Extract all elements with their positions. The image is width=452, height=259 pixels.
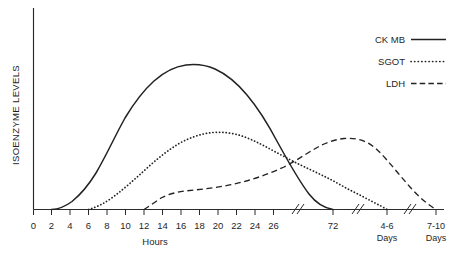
x-tick-label: 4 bbox=[67, 220, 72, 231]
series-line-ck-mb bbox=[52, 65, 334, 210]
y-axis-title: ISOENZYME LEVELS bbox=[10, 65, 21, 165]
series-curves bbox=[52, 65, 437, 210]
x-tick-label: 20 bbox=[213, 220, 224, 231]
x-tick-label: 16 bbox=[176, 220, 187, 231]
chart-plot-area: 0 2 4 6 8 10 12 14 16 18 20 22 24 26 72 … bbox=[0, 0, 452, 259]
x-tick-label: 8 bbox=[104, 220, 109, 231]
x-tick-label: 10 bbox=[120, 220, 131, 231]
legend-item-sgot: SGOT bbox=[378, 56, 446, 67]
series-line-sgot bbox=[89, 132, 388, 209]
x-tick-label: 4-6 bbox=[380, 221, 393, 231]
x-tick-label: 22 bbox=[231, 220, 242, 231]
chart-legend: CK MB SGOT LDH bbox=[375, 34, 446, 89]
legend-label: LDH bbox=[386, 78, 405, 89]
x-tick-label: 12 bbox=[139, 220, 150, 231]
x-axis-tick-labels: 0 2 4 6 8 10 12 14 16 18 20 22 24 26 72 … bbox=[31, 220, 447, 243]
x-tick-label: 0 bbox=[31, 220, 36, 231]
isoenzyme-chart-figure: 0 2 4 6 8 10 12 14 16 18 20 22 24 26 72 … bbox=[0, 0, 452, 259]
legend-label: CK MB bbox=[375, 34, 405, 45]
x-tick-label: 72 bbox=[328, 220, 339, 231]
x-axis-tick-marks bbox=[34, 210, 437, 216]
series-line-ldh bbox=[144, 138, 436, 209]
x-tick-label: 14 bbox=[157, 220, 168, 231]
x-tick-label: 24 bbox=[250, 220, 261, 231]
x-axis-title: Hours bbox=[142, 236, 168, 247]
x-tick-sublabel: Days bbox=[377, 233, 398, 243]
legend-item-ck-mb: CK MB bbox=[375, 34, 446, 45]
x-tick-label: 26 bbox=[268, 220, 279, 231]
legend-label: SGOT bbox=[378, 56, 405, 67]
x-tick-label: 2 bbox=[49, 220, 54, 231]
x-tick-label: 6 bbox=[86, 220, 91, 231]
x-tick-label: 7-10 bbox=[427, 221, 445, 231]
legend-item-ldh: LDH bbox=[386, 78, 446, 89]
x-tick-label: 18 bbox=[194, 220, 205, 231]
x-tick-sublabel: Days bbox=[426, 233, 447, 243]
